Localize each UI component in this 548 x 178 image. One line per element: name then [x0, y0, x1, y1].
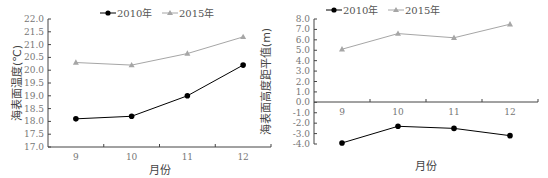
sst-chart: 22.021.521.020.520.019.519.018.518.017.5… — [10, 7, 271, 177]
y-tick-label: 7.0 — [296, 24, 311, 34]
y-tick-label: -1.0 — [293, 108, 311, 118]
x-axis-title: 月份 — [149, 164, 171, 177]
data-point-marker — [451, 126, 457, 132]
y-tick-label: 8.0 — [296, 14, 311, 24]
x-tick-label: 9 — [73, 152, 79, 162]
y-tick-label: 1.0 — [296, 87, 311, 97]
data-point-marker — [240, 62, 246, 68]
data-point-marker — [240, 34, 246, 39]
y-tick-label: -4.0 — [293, 139, 311, 149]
series-line-2010年 — [342, 126, 510, 143]
y-tick-label: 0.0 — [296, 97, 311, 107]
y-tick-label: 18.5 — [24, 104, 44, 114]
data-point-marker — [185, 93, 191, 99]
y-tick-label: 2.0 — [296, 77, 311, 87]
charts-canvas: 22.021.521.020.520.019.519.018.518.017.5… — [0, 0, 548, 178]
x-axis-title: 月份 — [415, 160, 437, 173]
ssh-anomaly-chart: 8.07.06.05.04.03.02.01.00.0-1.0-2.0-3.0-… — [259, 4, 538, 173]
y-tick-label: -2.0 — [293, 118, 311, 128]
y-tick-label: 3.0 — [296, 66, 311, 76]
series-line-2010年 — [76, 65, 243, 119]
y-tick-label: 6.0 — [296, 35, 311, 45]
data-point-marker — [73, 59, 79, 64]
y-tick-label: 4.0 — [296, 56, 311, 66]
x-tick-label: 12 — [504, 107, 515, 117]
legend-label: 2010年 — [117, 7, 152, 19]
y-tick-label: 21.5 — [24, 27, 44, 37]
y-tick-label: -3.0 — [293, 129, 311, 139]
data-point-marker — [507, 21, 513, 26]
data-point-marker — [507, 133, 513, 139]
legend-label: 2010年 — [343, 4, 378, 16]
x-tick-label: 10 — [392, 107, 404, 117]
y-axis-title: 海表面温度(℃) — [10, 45, 24, 121]
y-tick-label: 22.0 — [24, 14, 44, 24]
x-tick-label: 11 — [448, 107, 459, 117]
legend-label: 2015年 — [405, 4, 440, 16]
legend-marker — [105, 10, 110, 15]
y-tick-label: 18.0 — [24, 116, 44, 126]
x-tick-label: 9 — [339, 107, 345, 117]
data-point-marker — [395, 30, 401, 35]
data-point-marker — [395, 123, 401, 129]
data-point-marker — [339, 140, 345, 146]
y-tick-label: 5.0 — [296, 45, 311, 55]
data-point-marker — [73, 116, 79, 122]
legend-label: 2015年 — [179, 7, 214, 19]
data-point-marker — [129, 113, 135, 119]
x-tick-label: 10 — [126, 152, 138, 162]
series-line-2015年 — [342, 24, 510, 49]
y-tick-label: 19.5 — [24, 78, 44, 88]
y-tick-label: 20.5 — [24, 52, 44, 62]
y-tick-label: 19.0 — [24, 91, 44, 101]
y-axis-title: 海表面高度距平值(m) — [259, 28, 273, 135]
series-line-2015年 — [76, 37, 243, 65]
x-tick-label: 12 — [237, 152, 248, 162]
legend-marker — [331, 7, 336, 12]
x-tick-label: 11 — [182, 152, 193, 162]
y-tick-label: 17.5 — [24, 129, 44, 139]
y-tick-label: 21.0 — [24, 40, 44, 50]
y-tick-label: 17.0 — [24, 142, 44, 152]
y-tick-label: 20.0 — [24, 65, 44, 75]
